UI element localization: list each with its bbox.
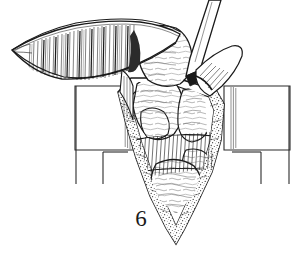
figure-number-caption: 6 — [126, 206, 156, 232]
figure-container: 6 — [0, 0, 303, 261]
